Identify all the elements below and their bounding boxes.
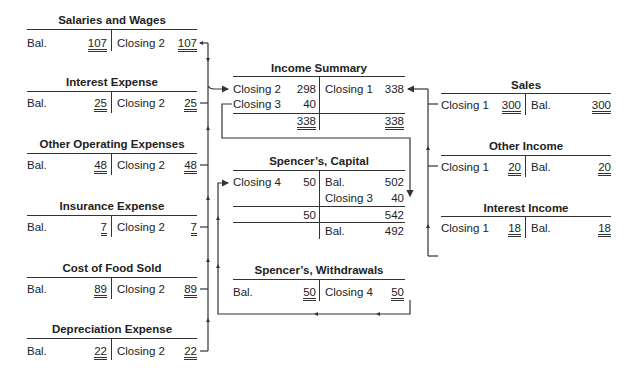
account-title: Depreciation Expense <box>27 323 197 335</box>
entry-value: 107 <box>88 37 107 52</box>
closing-flow-arrows <box>0 0 636 375</box>
entry-label: Closing 2 <box>117 345 165 358</box>
account-title: Cost of Food Sold <box>27 262 197 274</box>
entry-value: 22 <box>184 345 197 360</box>
entry-value: 298 <box>297 83 316 96</box>
entry-value: 18 <box>598 222 611 237</box>
entry-value: 22 <box>94 345 107 360</box>
entry-value: 25 <box>184 97 197 112</box>
entry-label: Closing 2 <box>117 221 165 234</box>
entry-label: Closing 3 <box>325 192 373 205</box>
entry-label: Bal. <box>325 176 345 189</box>
entry-label: Closing 1 <box>441 161 489 174</box>
entry-value: 50 <box>303 286 316 301</box>
entry-label: Closing 2 <box>117 283 165 296</box>
ending-balance-label: Bal. <box>325 225 345 238</box>
account-title: Interest Expense <box>27 76 197 88</box>
entry-label: Bal. <box>27 221 47 234</box>
entry-label: Bal. <box>531 161 551 174</box>
entry-label: Bal. <box>27 97 47 110</box>
entry-label: Closing 2 <box>117 159 165 172</box>
entry-value: 48 <box>94 159 107 174</box>
subtotal-value: 542 <box>385 209 404 222</box>
entry-value: 40 <box>391 192 404 205</box>
entry-value: 300 <box>592 99 611 114</box>
entry-label: Bal. <box>27 345 47 358</box>
account-title: Income Summary <box>233 62 405 74</box>
account-title: Other Income <box>441 140 611 152</box>
entry-value: 338 <box>385 83 404 96</box>
entry-value: 300 <box>502 99 521 114</box>
entry-value: 89 <box>184 283 197 298</box>
entry-label: Bal. <box>531 222 551 235</box>
entry-label: Closing 4 <box>233 176 281 189</box>
total-value: 338 <box>297 115 316 130</box>
total-value: 338 <box>385 115 404 130</box>
entry-value: 18 <box>508 222 521 237</box>
account-title: Interest Income <box>441 202 611 214</box>
entry-label: Bal. <box>531 99 551 112</box>
entry-value: 50 <box>391 286 404 301</box>
entry-label: Closing 2 <box>117 97 165 110</box>
entry-label: Bal. <box>27 37 47 50</box>
entry-value: 40 <box>303 98 316 111</box>
ending-balance-value: 492 <box>385 225 404 238</box>
entry-value: 89 <box>94 283 107 298</box>
entry-label: Bal. <box>233 286 253 299</box>
account-title: Other Operating Expenses <box>27 138 197 150</box>
account-title: Salaries and Wages <box>27 14 197 26</box>
entry-value: 7 <box>101 221 107 236</box>
entry-label: Closing 1 <box>441 99 489 112</box>
entry-value: 25 <box>94 97 107 112</box>
account-title: Spencer’s, Withdrawals <box>233 264 405 276</box>
account-title: Spencer’s, Capital <box>233 155 405 167</box>
entry-value: 20 <box>508 161 521 176</box>
entry-value: 48 <box>184 159 197 174</box>
account-title: Sales <box>441 79 611 91</box>
entry-label: Closing 2 <box>233 83 281 96</box>
entry-value: 502 <box>385 176 404 189</box>
entry-label: Closing 2 <box>117 37 165 50</box>
subtotal-value: 50 <box>303 209 316 222</box>
entry-label: Closing 3 <box>233 98 281 111</box>
entry-value: 107 <box>178 37 197 52</box>
entry-label: Closing 1 <box>441 222 489 235</box>
entry-label: Closing 1 <box>325 83 373 96</box>
account-title: Insurance Expense <box>27 200 197 212</box>
entry-value: 7 <box>191 221 197 236</box>
entry-label: Bal. <box>27 159 47 172</box>
entry-label: Bal. <box>27 283 47 296</box>
entry-value: 20 <box>598 161 611 176</box>
entry-label: Closing 4 <box>325 286 373 299</box>
entry-value: 50 <box>303 176 316 189</box>
